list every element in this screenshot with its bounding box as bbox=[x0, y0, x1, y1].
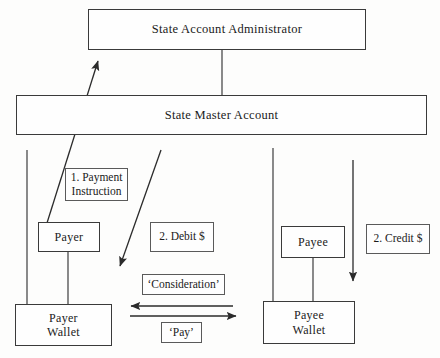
diagram-canvas: State Account Administrator State Master… bbox=[0, 0, 440, 358]
label-debit-text: 2. Debit $ bbox=[159, 230, 205, 243]
label-payment-instruction-text: 1. Payment Instruction bbox=[71, 171, 123, 197]
label-credit-text: 2. Credit $ bbox=[374, 232, 423, 245]
node-state-master-account[interactable]: State Master Account bbox=[16, 95, 427, 135]
label-pay-text: ‘Pay’ bbox=[169, 326, 194, 339]
node-payee-wallet-label: Payee Wallet bbox=[293, 308, 326, 336]
label-debit[interactable]: 2. Debit $ bbox=[150, 222, 214, 252]
node-payer[interactable]: Payer bbox=[38, 222, 100, 252]
node-payee-wallet[interactable]: Payee Wallet bbox=[263, 301, 355, 344]
node-payer-label: Payer bbox=[55, 230, 84, 244]
label-credit[interactable]: 2. Credit $ bbox=[366, 224, 430, 254]
node-payee[interactable]: Payee bbox=[281, 226, 345, 258]
node-state-account-administrator-label: State Account Administrator bbox=[152, 22, 302, 37]
node-payee-label: Payee bbox=[298, 235, 328, 249]
node-payer-wallet[interactable]: Payer Wallet bbox=[15, 304, 112, 346]
node-payer-wallet-label: Payer Wallet bbox=[47, 311, 80, 339]
label-consideration[interactable]: ‘Consideration’ bbox=[142, 274, 225, 295]
label-consideration-text: ‘Consideration’ bbox=[147, 278, 219, 291]
label-payment-instruction[interactable]: 1. Payment Instruction bbox=[65, 168, 128, 201]
label-pay[interactable]: ‘Pay’ bbox=[161, 322, 202, 343]
node-state-master-account-label: State Master Account bbox=[165, 108, 279, 123]
node-state-account-administrator[interactable]: State Account Administrator bbox=[88, 9, 366, 50]
